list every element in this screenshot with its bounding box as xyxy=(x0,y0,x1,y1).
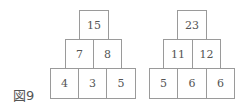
cell-top: 23 xyxy=(177,10,207,40)
cell-middle: 12 xyxy=(192,39,221,69)
cell-top: 15 xyxy=(79,10,109,40)
cell-middle: 7 xyxy=(65,39,94,69)
cell-bottom: 5 xyxy=(149,68,178,99)
cell-bottom: 4 xyxy=(50,68,79,99)
cell-middle: 8 xyxy=(93,39,122,69)
cell-bottom: 3 xyxy=(78,68,107,99)
cell-bottom: 6 xyxy=(206,68,235,99)
cell-middle: 11 xyxy=(163,39,193,69)
cell-bottom: 5 xyxy=(106,68,136,99)
figure-label: 図9 xyxy=(13,85,34,104)
cell-bottom: 6 xyxy=(177,68,207,99)
